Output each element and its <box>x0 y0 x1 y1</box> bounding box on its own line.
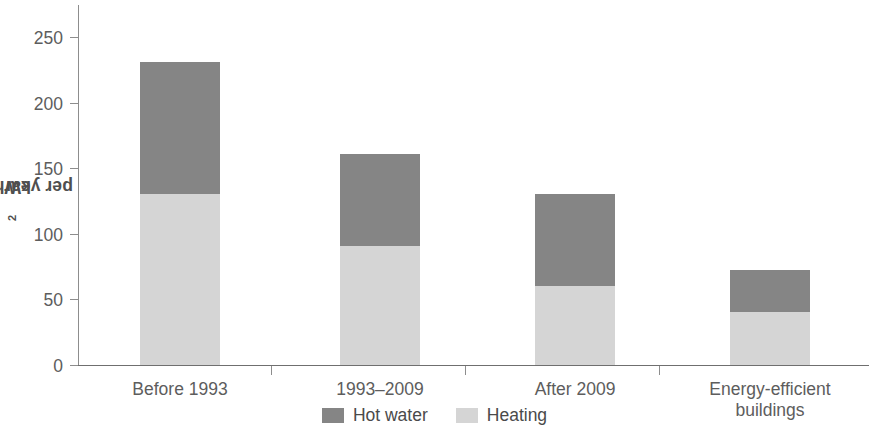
y-tick-label-200: 200 <box>34 93 63 114</box>
y-tick-200: 200 <box>70 103 78 104</box>
x-tick-1 <box>271 366 272 375</box>
bar-1993-2009 <box>340 154 420 365</box>
bar-segment-heating <box>140 194 220 365</box>
y-axis-line <box>78 5 79 366</box>
y-tick-100: 100 <box>70 234 78 235</box>
y-axis-title: kWh/m2 per year <box>0 0 34 372</box>
legend: Hot water Heating <box>0 405 869 426</box>
y-tick-label-100: 100 <box>34 224 63 245</box>
y-axis-title-superscript: 2 <box>6 214 18 220</box>
bar-segment-hot-water <box>140 62 220 194</box>
y-tick-label-150: 150 <box>34 158 63 179</box>
bar-after-2009 <box>535 194 615 365</box>
x-axis-label-before-1993: Before 1993 <box>100 379 260 400</box>
x-axis-label-1993-2009: 1993–2009 <box>300 379 460 400</box>
y-tick-label-50: 50 <box>44 289 63 310</box>
bar-segment-hot-water <box>340 154 420 246</box>
legend-label-heating: Heating <box>487 405 547 426</box>
x-tick-2 <box>465 366 466 375</box>
y-tick-0: 0 <box>70 365 78 366</box>
legend-swatch-heating <box>456 408 478 423</box>
bar-segment-heating <box>340 246 420 365</box>
bar-segment-hot-water <box>730 270 810 312</box>
y-tick-label-250: 250 <box>34 27 63 48</box>
y-tick-150: 150 <box>70 168 78 169</box>
bar-before-1993 <box>140 62 220 365</box>
x-axis-label-after-2009: After 2009 <box>495 379 655 400</box>
bar-segment-hot-water <box>535 194 615 286</box>
y-tick-label-0: 0 <box>53 355 63 376</box>
legend-label-hot-water: Hot water <box>353 405 428 426</box>
stacked-bar-chart: kWh/m2 per year 250 200 150 100 50 0 <box>0 0 869 439</box>
bar-segment-heating <box>730 312 810 365</box>
plot-area: 250 200 150 100 50 0 <box>78 5 869 366</box>
legend-swatch-hot-water <box>322 408 344 423</box>
legend-item-hot-water: Hot water <box>322 405 428 426</box>
bar-segment-heating <box>535 286 615 365</box>
bar-energy-efficient-buildings <box>730 270 810 365</box>
y-tick-250: 250 <box>70 37 78 38</box>
y-tick-50: 50 <box>70 299 78 300</box>
legend-item-heating: Heating <box>456 405 547 426</box>
x-tick-3 <box>659 366 660 375</box>
x-axis-line <box>78 365 869 366</box>
